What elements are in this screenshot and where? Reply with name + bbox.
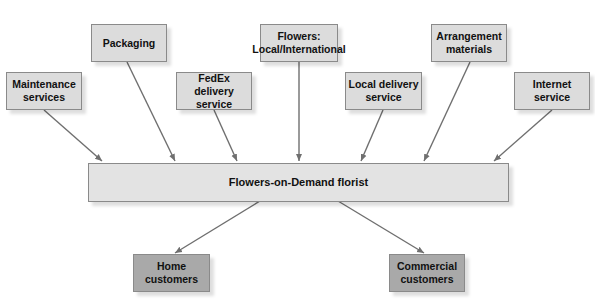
arrow-center-to-commercial bbox=[338, 201, 424, 253]
customer-home: Home customers bbox=[133, 254, 210, 292]
arrow-fedex-to-center bbox=[214, 110, 237, 161]
supplier-fedex-delivery: FedEx delivery service bbox=[176, 72, 252, 110]
arrow-arrangement-to-center bbox=[424, 62, 470, 161]
center-flowers-on-demand-florist: Flowers-on-Demand florist bbox=[88, 163, 509, 202]
supplier-local-delivery: Local delivery service bbox=[345, 72, 422, 110]
supplier-internet-service: Internet service bbox=[514, 72, 590, 110]
supplier-packaging: Packaging bbox=[91, 24, 167, 62]
arrow-packaging-to-center bbox=[127, 62, 175, 161]
arrow-local-delivery-to-center bbox=[361, 110, 383, 161]
arrow-maintenance-to-center bbox=[44, 110, 102, 161]
supplier-maintenance-services: Maintenance services bbox=[6, 72, 82, 110]
supplier-arrangement-materials: Arrangement materials bbox=[431, 24, 507, 62]
supplier-flowers-local-international: Flowers: Local/International bbox=[260, 24, 338, 62]
customer-commercial: Commercial customers bbox=[389, 254, 465, 292]
arrow-center-to-home bbox=[175, 201, 260, 253]
arrow-internet-to-center bbox=[494, 110, 552, 161]
